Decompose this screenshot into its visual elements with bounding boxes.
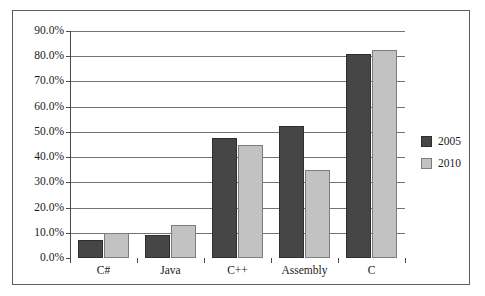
y-tick-label: 10.0%	[34, 227, 64, 239]
x-axis-label-Assembly: Assembly	[282, 265, 328, 277]
bar-2010-C[interactable]	[372, 50, 397, 258]
legend-label-2005: 2005	[438, 136, 461, 148]
y-tick-label: 60.0%	[34, 101, 64, 113]
bar-group	[70, 31, 405, 258]
y-tick-label: 30.0%	[34, 177, 64, 189]
chart-legend: 20052010	[421, 135, 461, 179]
x-axis-label-C: C#	[97, 265, 110, 277]
y-tick-label: 80.0%	[34, 50, 64, 62]
x-axis-label-Java: Java	[160, 265, 180, 277]
legend-item-2005[interactable]: 2005	[421, 135, 461, 148]
y-tick-label: 20.0%	[34, 202, 64, 214]
x-tick-mark	[405, 258, 406, 263]
x-tick-mark	[137, 258, 138, 263]
legend-item-2010[interactable]: 2010	[421, 157, 461, 170]
x-axis-label-C: C	[368, 265, 376, 277]
x-tick-mark	[338, 258, 339, 263]
y-tick-label: 90.0%	[34, 25, 64, 37]
legend-label-2010: 2010	[438, 158, 461, 170]
x-axis-label-C: C++	[227, 265, 248, 277]
chart-container: 0.0%10.0%20.0%30.0%40.0%50.0%60.0%70.0%8…	[0, 0, 485, 296]
bar-2005-C[interactable]	[346, 54, 371, 258]
legend-swatch-2010	[421, 158, 432, 169]
y-tick-label: 40.0%	[34, 151, 64, 163]
y-tick-label: 50.0%	[34, 126, 64, 138]
y-tick-label: 0.0%	[40, 252, 64, 264]
legend-swatch-2005	[421, 136, 432, 147]
y-tick-label: 70.0%	[34, 76, 64, 88]
chart-frame: 0.0%10.0%20.0%30.0%40.0%50.0%60.0%70.0%8…	[12, 10, 470, 285]
x-tick-mark-origin	[70, 258, 71, 263]
x-tick-mark	[204, 258, 205, 263]
plot-area: 0.0%10.0%20.0%30.0%40.0%50.0%60.0%70.0%8…	[70, 31, 405, 258]
x-tick-mark	[271, 258, 272, 263]
